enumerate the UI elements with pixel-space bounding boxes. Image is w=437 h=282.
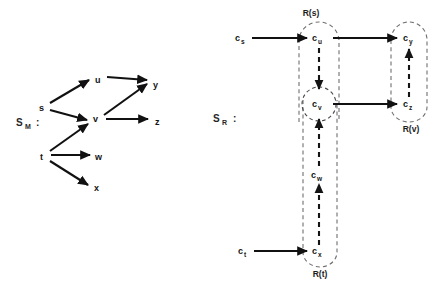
node-label-cx: c x (312, 246, 322, 258)
system-label-sr-subscript: R (222, 119, 227, 126)
right-panel-solid-edges (252, 38, 397, 251)
edge-s-v (50, 110, 87, 120)
node-label-v: v (93, 114, 98, 124)
node-label-cx-subscript: x (318, 251, 322, 258)
system-label-sm-colon: : (36, 117, 39, 128)
node-label-cu: c u (312, 33, 322, 45)
figure-canvas: S M : s t u v w x (0, 0, 437, 282)
system-label-sm: S M : (16, 117, 39, 130)
node-label-cs-subscript: s (241, 38, 245, 45)
node-label-z: z (155, 117, 160, 127)
node-label-cy: c y (403, 33, 413, 46)
system-label-sr-base: S (213, 113, 220, 124)
edge-u-y (107, 77, 147, 80)
right-panel-dashed-edges (319, 48, 409, 245)
node-label-cy-subscript: y (409, 38, 413, 46)
region-label-rv: R(v) (403, 124, 420, 134)
edge-t-v (50, 124, 88, 151)
node-label-cv-base: c (312, 99, 317, 109)
node-label-cw-subscript: w (316, 175, 323, 182)
node-label-cv: c v (312, 99, 322, 111)
node-label-t: t (40, 152, 43, 162)
left-panel-nodes: s t u v w x y z (39, 75, 160, 193)
system-label-sr: S R : (213, 113, 236, 126)
node-label-cu-base: c (312, 33, 317, 43)
node-label-cu-subscript: u (318, 38, 322, 45)
node-label-cw: c w (311, 170, 323, 182)
node-label-x: x (94, 183, 99, 193)
node-label-cy-base: c (403, 33, 408, 43)
system-label-sr-colon: : (233, 113, 236, 124)
left-panel-edges (50, 77, 148, 185)
node-label-s: s (39, 103, 44, 113)
region-label-rt: R(t) (313, 269, 328, 279)
system-label-sm-base: S (16, 117, 23, 128)
node-label-u: u (95, 75, 101, 85)
node-label-y: y (153, 80, 158, 90)
node-label-cz-base: c (403, 99, 408, 109)
node-label-cz-subscript: z (409, 104, 413, 111)
edge-v-y (104, 84, 147, 115)
node-label-ct: c t (238, 246, 247, 258)
node-label-cs: c s (235, 33, 245, 45)
edge-t-x (50, 161, 88, 185)
node-label-ct-base: c (238, 246, 243, 256)
diagram-svg: S M : s t u v w x (0, 0, 437, 282)
system-label-sm-subscript: M (25, 123, 31, 130)
node-label-cs-base: c (235, 33, 240, 43)
right-panel-graph: S R : R(s) R(t) R(v) (213, 8, 427, 279)
edge-s-u (50, 80, 89, 103)
node-label-cx-base: c (312, 246, 317, 256)
node-label-ct-subscript: t (244, 251, 247, 258)
node-label-w: w (94, 152, 103, 162)
left-panel-graph: S M : s t u v w x (16, 75, 160, 193)
node-label-cw-base: c (311, 170, 316, 180)
node-label-cz: c z (403, 99, 413, 111)
region-label-rs: R(s) (303, 8, 320, 18)
node-label-cv-subscript: v (318, 104, 322, 111)
